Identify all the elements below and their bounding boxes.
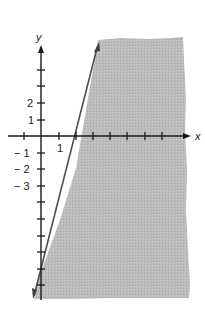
y-axis <box>37 45 45 300</box>
x-axis-label: x <box>194 130 201 142</box>
y-axis-label: y <box>35 31 43 43</box>
x-axis-arrow-icon <box>183 133 191 139</box>
y-tick-label-1: 1 <box>28 114 34 126</box>
boundary-arrow-top-icon <box>94 42 100 52</box>
y-tick-label-neg3: − 3 <box>14 180 30 192</box>
shaded-region <box>34 37 190 299</box>
y-tick-label-neg1: − 1 <box>14 147 30 159</box>
y-axis-arrow-icon <box>38 45 44 53</box>
x-tick-label-1: 1 <box>57 142 63 154</box>
y-tick-label-2: 2 <box>27 97 33 109</box>
inequality-graph: y x 1 2 1 − 1 − 2 − 3 <box>0 0 205 313</box>
y-tick-label-neg2: − 2 <box>14 163 30 175</box>
